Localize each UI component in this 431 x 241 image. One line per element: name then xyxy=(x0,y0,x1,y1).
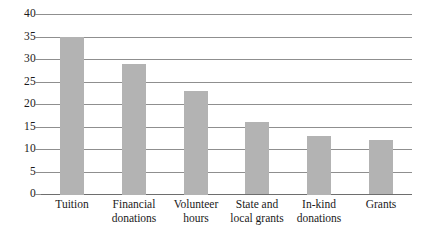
bar xyxy=(245,122,269,194)
x-axis: Tuition Financialdonations Volunteerhour… xyxy=(41,197,412,241)
y-axis: 40 35 30 25 20 15 10 5 0 xyxy=(0,0,36,241)
bar-chart: 40 35 30 25 20 15 10 5 0 Tuition Financi… xyxy=(0,0,431,241)
y-tick-label: 5 xyxy=(0,166,36,178)
y-tick-label: 25 xyxy=(0,76,36,88)
plot-area: Tuition Financialdonations Volunteerhour… xyxy=(41,0,412,241)
y-tick-label: 20 xyxy=(0,98,36,110)
y-tick-label: 30 xyxy=(0,53,36,65)
bar xyxy=(307,136,331,195)
y-tick-label: 10 xyxy=(0,143,36,155)
bar xyxy=(60,37,84,195)
y-tick-label: 35 xyxy=(0,31,36,43)
bar xyxy=(369,140,393,194)
y-tick-label: 0 xyxy=(0,188,36,200)
x-axis-label-line: Grants xyxy=(343,197,419,211)
x-axis-label-line: donations xyxy=(281,211,357,225)
y-tick-label: 40 xyxy=(0,8,36,20)
bar xyxy=(184,91,208,195)
bar xyxy=(122,64,146,195)
x-axis-label: Grants xyxy=(343,197,419,211)
y-tick-label: 15 xyxy=(0,121,36,133)
